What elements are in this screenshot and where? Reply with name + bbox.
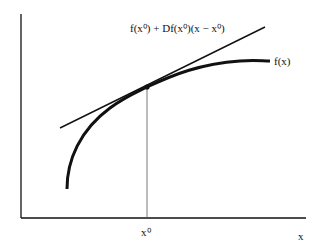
tangency-point	[144, 84, 149, 89]
tangent-line	[60, 27, 265, 128]
function-curve	[67, 61, 270, 189]
tangent-label: f(x⁰) + Df(x⁰)(x − x⁰)	[130, 22, 225, 35]
x-axis-label: x	[298, 230, 304, 242]
curve-label: f(x)	[274, 55, 291, 68]
diagram-canvas: f(x⁰) + Df(x⁰)(x − x⁰) f(x) x⁰ x	[0, 0, 321, 246]
x0-label: x⁰	[141, 226, 152, 238]
